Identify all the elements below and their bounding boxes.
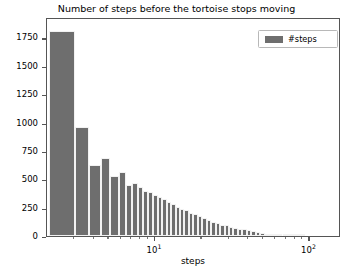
x-axis-minor-tick-mark bbox=[285, 237, 286, 239]
x-axis-minor-tick-mark bbox=[247, 237, 248, 239]
x-axis-minor-tick-mark bbox=[294, 237, 295, 239]
histogram-bar bbox=[89, 165, 100, 236]
histogram-bar bbox=[110, 176, 119, 236]
histogram-bar bbox=[300, 234, 304, 236]
x-axis-major-tick-mark bbox=[308, 237, 309, 241]
chart-title: Number of steps before the tortoise stop… bbox=[0, 3, 353, 14]
y-axis-tick-label: 1750 bbox=[4, 32, 38, 42]
y-axis-tick-label: 500 bbox=[4, 174, 38, 184]
x-axis-tick-label: 102 bbox=[288, 243, 328, 255]
histogram-bars bbox=[47, 19, 339, 236]
histogram-bar bbox=[49, 31, 76, 236]
x-axis-minor-tick-mark bbox=[274, 237, 275, 239]
x-axis-minor-tick-mark bbox=[120, 237, 121, 239]
x-axis-minor-tick-mark bbox=[228, 237, 229, 239]
x-axis-minor-tick-mark bbox=[139, 237, 140, 239]
x-axis-minor-tick-mark bbox=[262, 237, 263, 239]
histogram-bar bbox=[101, 158, 111, 236]
histogram-bar bbox=[75, 127, 89, 236]
x-axis-minor-tick-mark bbox=[73, 237, 74, 239]
y-axis-tick-label: 1500 bbox=[4, 61, 38, 71]
x-axis-label: steps bbox=[46, 256, 340, 266]
y-axis-tick-label: 250 bbox=[4, 203, 38, 213]
x-axis-minor-tick-mark bbox=[130, 237, 131, 239]
y-axis-tick-label: 1250 bbox=[4, 89, 38, 99]
legend: #steps bbox=[258, 30, 338, 48]
x-axis-minor-tick-mark bbox=[301, 237, 302, 239]
x-axis-minor-tick-mark bbox=[200, 237, 201, 239]
x-axis-tick-label: 101 bbox=[134, 243, 174, 255]
histogram-bar bbox=[119, 172, 126, 236]
y-axis-tick-label: 0 bbox=[4, 231, 38, 241]
y-axis-tick-label: 750 bbox=[4, 146, 38, 156]
y-axis-tick-label: 1000 bbox=[4, 118, 38, 128]
chart-figure: Number of steps before the tortoise stop… bbox=[0, 0, 353, 276]
x-axis-major-tick-mark bbox=[154, 237, 155, 241]
legend-label-steps: #steps bbox=[288, 34, 317, 44]
y-axis-tick-mark bbox=[42, 237, 46, 238]
plot-area bbox=[46, 18, 340, 237]
x-axis-minor-tick-mark bbox=[147, 237, 148, 239]
x-axis-minor-tick-mark bbox=[93, 237, 94, 239]
x-axis-minor-tick-mark bbox=[107, 237, 108, 239]
legend-swatch-steps bbox=[265, 36, 283, 43]
